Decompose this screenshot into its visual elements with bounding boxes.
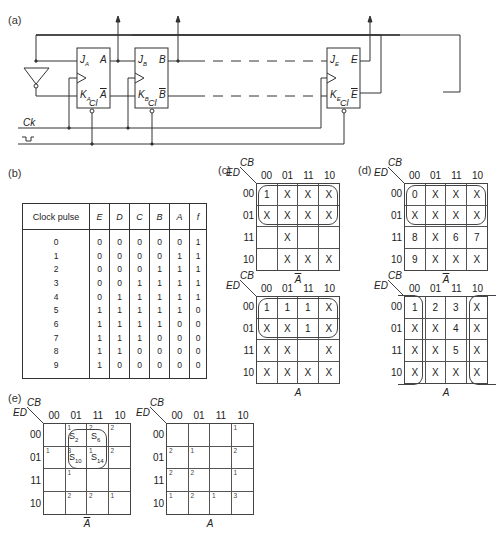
kmap-cell: X — [278, 340, 299, 362]
truth-table: Clock pulse E D C B A f 0123456789000001… — [22, 203, 207, 379]
kmap-cell: X — [426, 340, 447, 362]
transition-count: 1 — [169, 492, 173, 499]
circuit-diagram — [0, 0, 497, 160]
ff-e-j-label: JE — [330, 54, 339, 67]
kmap-grid: 111XXX1XXXXXXXX — [256, 296, 340, 384]
ff-b-j-label: JB — [138, 54, 147, 67]
kmap-cell: X — [446, 362, 467, 384]
header-d: D — [109, 204, 129, 229]
transition-count: 1 — [46, 447, 50, 454]
kmap-cell — [298, 227, 319, 249]
table-cell: 1 — [190, 262, 206, 276]
kmap-cell: X — [426, 227, 447, 249]
kmap-row-header: 11 — [236, 345, 254, 356]
ff-e-qbar-label: E — [351, 89, 358, 100]
kmap-cell — [189, 424, 211, 447]
kmap-cell: X — [446, 184, 467, 206]
table-cell: 1 — [90, 358, 109, 372]
kmap-cell: X — [426, 319, 447, 341]
ff-e-cl-label: Cl — [340, 98, 349, 108]
transition-count: 2 — [68, 492, 72, 499]
kmap-grid: 1XXXXXXXXXXX — [256, 183, 340, 271]
kmap-col-header: 00 — [256, 283, 277, 294]
ff-a-qbar-label: A — [100, 89, 107, 100]
kmap-cell: X — [319, 297, 340, 319]
kmap-cell: 1 — [257, 184, 278, 206]
kmap-cell: X — [405, 319, 426, 341]
kmap-row-header: 01 — [23, 452, 41, 463]
column-clock-pulse: 0123456789 — [23, 230, 89, 379]
kmap-cell: 2 — [109, 447, 131, 470]
kmap-caption-a-bar: A — [43, 518, 131, 529]
ff-b-cl-label: Cl — [148, 98, 157, 108]
kmap-cell: X — [467, 297, 488, 319]
table-cell: 0 — [130, 249, 149, 263]
kmap-cell: X — [446, 249, 467, 271]
table-cell: 1 — [150, 290, 169, 304]
table-cell: 5 — [23, 303, 89, 317]
kmap-row-header: 10 — [23, 498, 41, 509]
kmap-cell: X — [426, 184, 447, 206]
table-cell: 1 — [150, 262, 169, 276]
kmap-cell: X — [278, 249, 299, 271]
kmap-cell: X — [278, 362, 299, 384]
kmap-row-header: 10 — [236, 254, 254, 265]
kmap-row-header: 00 — [384, 301, 402, 312]
table-cell: 0 — [150, 235, 169, 249]
kmap-cell: X — [298, 249, 319, 271]
table-cell: 1 — [90, 317, 109, 331]
kmap-cell — [44, 469, 66, 492]
table-cell: 1 — [170, 290, 189, 304]
column-b: 0011111000 — [149, 230, 169, 379]
clock-label: Ck — [23, 117, 35, 128]
table-cell: 1 — [150, 303, 169, 317]
table-cell: 0 — [130, 358, 149, 372]
table-cell: 1 — [130, 290, 149, 304]
kmap-cell: X — [319, 206, 340, 228]
table-cell: 0 — [170, 235, 189, 249]
kmap-col-header: 10 — [467, 283, 488, 294]
kmap-cell: X — [257, 340, 278, 362]
kmap-cell: X — [467, 249, 488, 271]
header-c: C — [129, 204, 149, 229]
kmap-cell — [257, 249, 278, 271]
transition-count: 1 — [111, 492, 115, 499]
kmap-col-header: 00 — [404, 170, 425, 181]
table-cell: 1 — [150, 276, 169, 290]
kmap-col-header: 00 — [404, 283, 425, 294]
kmap-cell: 2 — [189, 492, 211, 515]
table-cell: 4 — [23, 290, 89, 304]
table-cell: 0 — [110, 276, 129, 290]
kmap-row-header: 10 — [384, 254, 402, 265]
table-cell: 0 — [150, 331, 169, 345]
kmap-cell: X — [426, 362, 447, 384]
header-clock-pulse: Clock pulse — [23, 204, 89, 229]
kmap-col-header: 00 — [166, 410, 188, 421]
kmap-diagonal — [386, 165, 406, 185]
table-cell: 8 — [23, 345, 89, 359]
table-cell: 0 — [190, 331, 206, 345]
kmap-cell — [298, 340, 319, 362]
kmap-caption-a: A — [166, 518, 254, 529]
state-label: S14 — [91, 452, 104, 464]
kmap-row-header: 00 — [23, 429, 41, 440]
kmap-cell: X — [298, 206, 319, 228]
kmap-col-header: 10 — [467, 170, 488, 181]
kmap-row-header: 01 — [384, 323, 402, 334]
table-cell: 1 — [170, 303, 189, 317]
kmap-cell: 1 — [44, 447, 66, 470]
kmap-cell: X — [446, 206, 467, 228]
kmap-col-header: 10 — [319, 283, 340, 294]
transition-count: 2 — [234, 447, 238, 454]
state-label: S10 — [69, 452, 82, 464]
transition-count: 2 — [89, 424, 93, 431]
transition-count: 1 — [234, 424, 238, 431]
table-cell: 2 — [23, 262, 89, 276]
kmap-col-header: 11 — [298, 283, 319, 294]
kmap-diagonal — [386, 278, 406, 298]
kmap-grid: 12213121221 — [43, 423, 131, 515]
kmap-cell: X — [278, 206, 299, 228]
kmap-grid: 123XXX4XXX5XXXXX — [404, 296, 488, 384]
kmap-row-header: 00 — [236, 188, 254, 199]
table-cell: 1 — [130, 303, 149, 317]
